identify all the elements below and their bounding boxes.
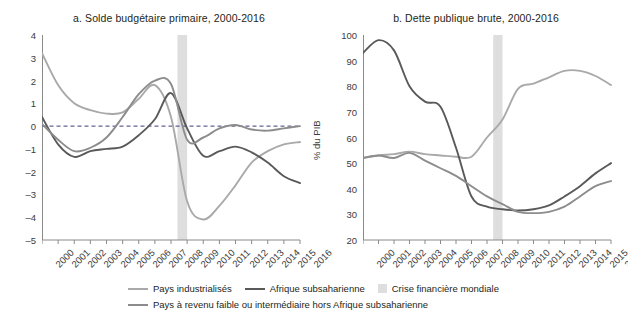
legend-label-crise: Crise financière mondiale	[392, 283, 499, 294]
legend-line-icon-revenu-faible	[128, 304, 148, 306]
y-axis-tick-label: 4	[8, 30, 36, 41]
series-line-1	[42, 53, 300, 219]
legend-item-afrique-subsaharienne: Afrique subsaharienne	[245, 283, 365, 294]
y-axis-tick-label: 100	[329, 30, 357, 41]
y-axis-tick-label: 2	[8, 75, 36, 86]
legend-box-icon-crise	[378, 284, 387, 293]
y-axis-tick-label: 20	[329, 235, 357, 246]
series-line-1	[363, 70, 611, 158]
panel-a-plot-area: 43210–1–2–3–4–5% du PIB20002001200220032…	[42, 35, 300, 240]
y-axis-tick-label: –3	[8, 189, 36, 200]
figure-root: a. Solde budgétaire primaire, 2000-2016 …	[0, 0, 628, 327]
y-axis-label: % du PIB	[311, 120, 322, 160]
panel-a-title: a. Solde budgétaire primaire, 2000-2016	[0, 12, 320, 24]
plot-b-svg	[363, 35, 613, 254]
legend-item-pays-revenu-faible: Pays à revenu faible ou intermédiaire ho…	[128, 299, 428, 310]
y-axis-tick-label: 1	[8, 98, 36, 109]
legend-row-primary: Pays industrialisés Afrique subsaharienn…	[128, 283, 512, 294]
legend-item-crise-financiere: Crise financière mondiale	[378, 283, 499, 294]
legend-row-secondary: Pays à revenu faible ou intermédiaire ho…	[128, 299, 441, 310]
y-axis-tick-label: –5	[8, 235, 36, 246]
series-line-2	[363, 40, 611, 210]
legend-label-industrialises: Pays industrialisés	[153, 283, 232, 294]
panel-b-plot-area: 1009080706050403020% du PIB2000200120022…	[363, 35, 611, 240]
y-axis-tick-label: 0	[8, 121, 36, 132]
chart-panel-a: a. Solde budgétaire primaire, 2000-2016 …	[0, 0, 320, 285]
y-axis-tick-label: 60	[329, 132, 357, 143]
y-axis-tick-label: 90	[329, 55, 357, 66]
plot-a-svg	[42, 35, 302, 254]
y-axis-tick-label: 70	[329, 106, 357, 117]
chart-panel-b: b. Dette publique brute, 2000-2016 10090…	[320, 0, 628, 285]
axis-lines	[43, 35, 301, 240]
y-axis-tick-label: –4	[8, 212, 36, 223]
legend-item-pays-industrialises: Pays industrialisés	[128, 283, 232, 294]
y-axis-tick-label: 30	[329, 209, 357, 220]
y-axis-tick-label: 50	[329, 158, 357, 169]
y-axis-tick-label: –1	[8, 143, 36, 154]
y-axis-tick-label: 80	[329, 81, 357, 92]
y-axis-tick-label: –2	[8, 166, 36, 177]
legend-line-icon-industrialises	[128, 288, 148, 290]
y-axis-label: % du PIB	[0, 120, 1, 160]
y-axis-tick-label: 3	[8, 52, 36, 63]
panel-b-title: b. Dette publique brute, 2000-2016	[320, 12, 628, 24]
series-line-3	[363, 153, 611, 213]
legend: Pays industrialisés Afrique subsaharienn…	[0, 283, 628, 327]
legend-label-revenu-faible: Pays à revenu faible ou intermédiaire ho…	[153, 299, 428, 310]
y-axis-tick-label: 40	[329, 183, 357, 194]
legend-label-afrique: Afrique subsaharienne	[270, 283, 365, 294]
legend-line-icon-afrique	[245, 288, 265, 290]
